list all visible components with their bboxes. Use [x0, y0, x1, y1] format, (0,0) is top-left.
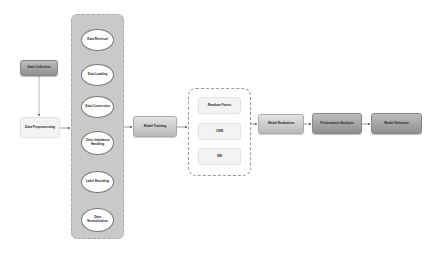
node-performance-analysis: Performance Analysis — [312, 113, 362, 134]
step-data-retrieval: Data Retrieval — [81, 29, 114, 51]
model-nn: NN — [198, 148, 241, 165]
step-label-encoding: Label Encoding — [81, 171, 114, 193]
node-data-preprocessing: Data Preprocessing — [20, 117, 60, 138]
step-data-conversion: Data Conversion — [81, 96, 114, 118]
step-data-normalization: Data Normalization — [81, 208, 114, 232]
node-data-collection: Data Collection — [20, 60, 58, 76]
step-class-imbalance-handling: Class Imbalance Handling — [81, 131, 114, 155]
node-model-selection: Model Selection — [371, 113, 422, 134]
node-model-training: Model Training — [133, 116, 177, 137]
step-data-loading: Data Loading — [81, 64, 114, 86]
node-model-evaluation: Model Evaluation — [258, 114, 304, 134]
model-random-forest: Random Forest — [198, 97, 241, 114]
model-cnn: CNN — [198, 123, 241, 140]
